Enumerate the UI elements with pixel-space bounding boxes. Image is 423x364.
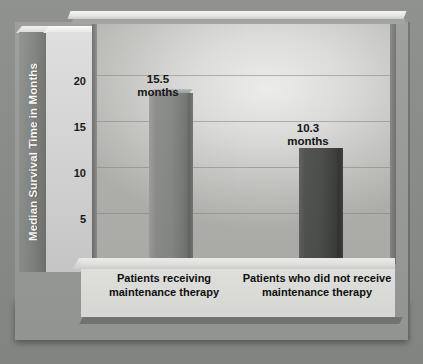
baseline-floor (81, 258, 395, 269)
chart-scene: Median Survival Time in Months 20 15 10 … (0, 0, 423, 364)
bar-1-value-label: 15.5 months (118, 73, 198, 99)
category-strip-shadow (79, 317, 403, 324)
category-label-2: Patients who did not receive maintenance… (241, 272, 393, 299)
y-tick-label-20: 20 (46, 76, 86, 87)
plot-area (92, 24, 395, 258)
bar-2-front-face (299, 148, 338, 258)
bar-patients-receiving-maintenance-therapy[interactable] (149, 93, 188, 258)
category-label-strip: Patients receiving maintenance therapy P… (81, 269, 395, 317)
y-tick-label-5: 5 (46, 214, 86, 225)
bar-2-value-label: 10.3 months (268, 122, 348, 148)
bar-2-side-face (338, 148, 343, 258)
gridline-15 (92, 121, 395, 122)
y-tick-label-10: 10 (46, 168, 86, 179)
bar-1-front-face (149, 93, 188, 258)
y-axis-title: Median Survival Time in Months (19, 32, 46, 272)
bar-1-side-face (188, 93, 193, 258)
gridline-5 (92, 213, 395, 214)
bar-patients-not-receiving-maintenance-therapy[interactable] (299, 148, 338, 258)
top-ledge (68, 11, 407, 19)
y-axis-spine (92, 24, 97, 258)
y-axis-tick-panel: 20 15 10 5 0 (46, 32, 92, 272)
category-label-1: Patients receiving maintenance therapy (85, 272, 243, 299)
y-tick-label-15: 15 (46, 122, 86, 133)
plot-right-spine (390, 24, 396, 264)
gridline-10 (92, 167, 395, 168)
